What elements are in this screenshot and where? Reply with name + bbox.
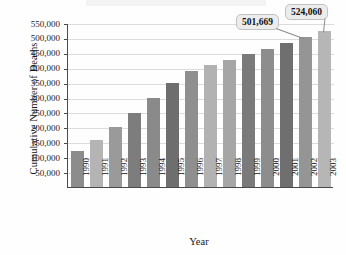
x-tick-text: 1992 <box>119 158 129 192</box>
chart-figure: Cumulative Number of Deaths Year 50,0001… <box>0 0 346 255</box>
x-tick-text: 1990 <box>81 158 91 192</box>
gridline <box>68 24 334 25</box>
y-tick-label: 50,000 <box>16 169 60 178</box>
y-tick-mark <box>64 113 69 114</box>
y-tick-label: 150,000 <box>16 139 60 148</box>
gridline <box>68 84 334 85</box>
y-tick-label: 100,000 <box>16 154 60 163</box>
gridline <box>68 39 334 40</box>
y-tick-label: 200,000 <box>16 124 60 133</box>
y-tick-label: 500,000 <box>16 34 60 43</box>
value-callout: 501,669 <box>236 14 279 30</box>
y-tick-mark <box>64 39 69 40</box>
gridline <box>68 54 334 55</box>
gridline <box>68 143 334 144</box>
x-tick-text: 1993 <box>138 158 148 192</box>
y-tick-mark <box>64 84 69 85</box>
x-tick-text: 2003 <box>328 158 338 192</box>
gridline <box>68 69 334 70</box>
gridline <box>68 128 334 129</box>
x-tick-text: 1994 <box>157 158 167 192</box>
x-axis-title: Year <box>62 236 336 247</box>
x-tick-text: 2001 <box>290 158 300 192</box>
y-tick-mark <box>64 143 69 144</box>
y-tick-label: 350,000 <box>16 79 60 88</box>
x-tick-text: 1996 <box>195 158 205 192</box>
x-tick-text: 1997 <box>214 158 224 192</box>
gridline <box>68 113 334 114</box>
scan-artifact <box>86 0 266 6</box>
gridline <box>68 99 334 100</box>
y-tick-label: 550,000 <box>16 20 60 29</box>
y-tick-mark <box>64 69 69 70</box>
x-tick-text: 2000 <box>271 158 281 192</box>
y-tick-label: 300,000 <box>16 94 60 103</box>
y-tick-mark <box>64 54 69 55</box>
y-tick-mark <box>64 128 69 129</box>
x-tick-text: 2002 <box>309 158 319 192</box>
y-tick-mark <box>64 173 69 174</box>
y-tick-mark <box>64 158 69 159</box>
x-tick-text: 1991 <box>100 158 110 192</box>
value-callout: 524,060 <box>285 4 328 20</box>
x-tick-text: 1999 <box>252 158 262 192</box>
y-tick-mark <box>64 99 69 100</box>
y-tick-label: 250,000 <box>16 109 60 118</box>
x-tick-text: 1995 <box>176 158 186 192</box>
y-tick-mark <box>64 24 69 25</box>
y-tick-label: 450,000 <box>16 49 60 58</box>
x-tick-text: 1998 <box>233 158 243 192</box>
y-tick-label: 400,000 <box>16 64 60 73</box>
